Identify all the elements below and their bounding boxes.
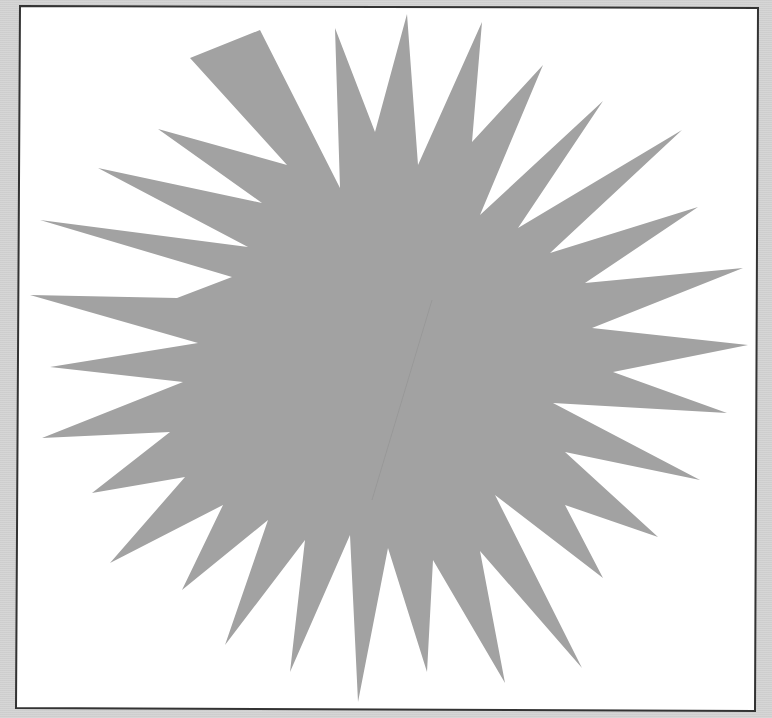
starburst-canvas <box>0 0 772 718</box>
